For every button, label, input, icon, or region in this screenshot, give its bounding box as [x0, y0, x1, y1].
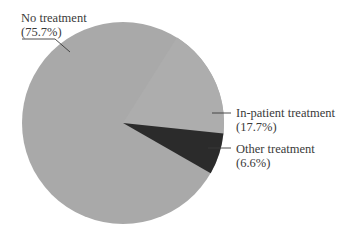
label-other-pct: (6.6%)	[236, 156, 270, 170]
pie-chart: No treatment (75.7%) In-patient treatmen…	[0, 0, 356, 232]
label-in-patient: In-patient treatment	[236, 106, 335, 120]
label-no-treatment-pct: (75.7%)	[21, 25, 62, 39]
label-other: Other treatment	[236, 142, 315, 156]
label-in-patient-pct: (17.7%)	[236, 120, 277, 134]
label-no-treatment: No treatment	[21, 11, 87, 25]
